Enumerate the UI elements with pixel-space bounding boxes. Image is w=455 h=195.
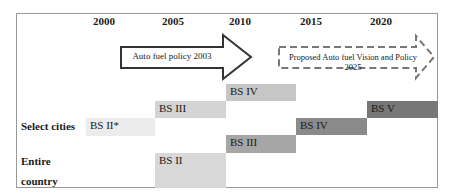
- block-entire-bs2: BS II: [155, 153, 226, 188]
- year-2015: 2015: [300, 15, 322, 27]
- policy-2025-label: Proposed Auto fuel Vision and Policy 202…: [282, 52, 424, 72]
- year-2005: 2005: [162, 15, 184, 27]
- year-2010: 2010: [229, 15, 251, 27]
- row-label-entire: Entire: [21, 155, 51, 167]
- block-entire-bs3: BS III: [226, 135, 296, 153]
- block-cities-bs2: BS II*: [86, 118, 155, 136]
- block-cities-bs3: BS III: [155, 101, 226, 118]
- year-2000: 2000: [93, 15, 115, 27]
- block-entire-bs4: BS IV: [296, 118, 367, 135]
- block-cities-bs4: BS IV: [226, 84, 296, 101]
- policy-2003-label: Auto fuel policy 2003: [122, 51, 222, 61]
- row-label-select-cities: Select cities: [21, 120, 75, 132]
- year-2020: 2020: [370, 15, 392, 27]
- block-bs5: BS V: [367, 101, 438, 118]
- row-label-country: country: [21, 175, 58, 187]
